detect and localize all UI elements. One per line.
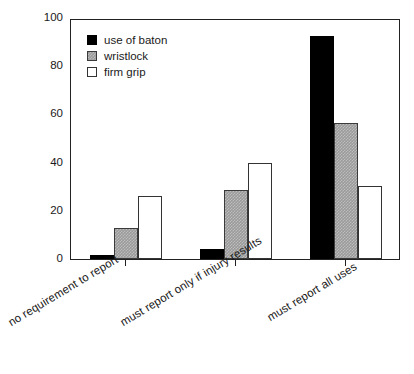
legend-item-baton: use of baton (87, 32, 167, 47)
x-tick-1 (125, 260, 126, 266)
legend: use of baton wristlock firm grip (87, 32, 167, 80)
bar-firm-grip-group-3 (358, 186, 382, 260)
x-axis-label-1: no requirement to report (6, 253, 120, 328)
bar-firm-grip-group-1 (138, 196, 162, 259)
legend-label-grip: firm grip (104, 66, 146, 78)
x-axis-label-3: must report all uses (265, 260, 359, 323)
y-tick-label: 80 (50, 59, 63, 71)
legend-swatch-baton-icon (87, 35, 97, 45)
y-tick-label: 100 (44, 11, 63, 23)
legend-swatch-grip-icon (87, 67, 97, 77)
y-tick-label: 0 (57, 252, 63, 264)
y-tick-label: 40 (50, 156, 63, 168)
legend-swatch-wristlock-icon (87, 51, 97, 61)
legend-item-wristlock: wristlock (87, 48, 167, 63)
legend-label-wristlock: wristlock (104, 50, 148, 62)
bar-chart: percentage of departments 020406080100 u… (0, 0, 414, 374)
bar-wristlock-group-3 (334, 123, 358, 259)
y-tick-label: 60 (50, 107, 63, 119)
bar-use-of-baton-group-3 (310, 36, 334, 259)
bar-wristlock-group-1 (114, 228, 138, 259)
y-tick-label: 20 (50, 204, 63, 216)
plot-area: use of baton wristlock firm grip (70, 19, 400, 260)
legend-label-baton: use of baton (104, 34, 167, 46)
legend-item-grip: firm grip (87, 64, 167, 79)
